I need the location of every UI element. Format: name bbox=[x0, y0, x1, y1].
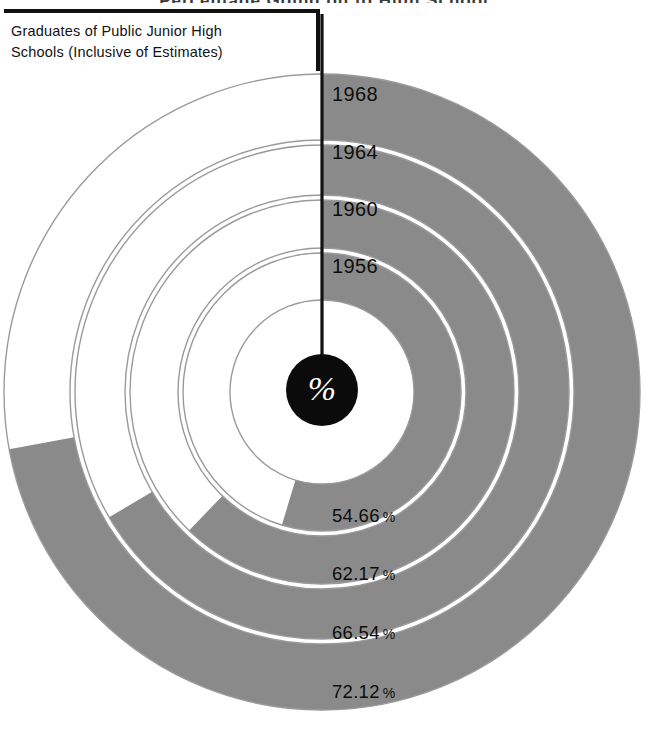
ring-year-label-1960: 1960 bbox=[332, 198, 378, 221]
ring-percent-label-1956: 54.66% bbox=[332, 505, 396, 527]
percent-sign-1968: % bbox=[380, 685, 396, 701]
legend-box: Graduates of Public Junior High Schools … bbox=[4, 9, 320, 71]
percent-glyph: % bbox=[308, 372, 336, 406]
ring-percent-label-1968: 72.12% bbox=[332, 681, 396, 703]
percent-value-1964: 66.54 bbox=[332, 622, 380, 643]
percent-sign-1956: % bbox=[380, 509, 396, 525]
ring-percent-label-1960: 62.17% bbox=[332, 563, 396, 585]
percent-value-1956: 54.66 bbox=[332, 505, 380, 526]
percent-value-1960: 62.17 bbox=[332, 563, 380, 584]
percent-sign-1960: % bbox=[380, 567, 396, 583]
percent-sign-1964: % bbox=[380, 626, 396, 642]
ring-year-label-1964: 1964 bbox=[332, 141, 378, 164]
legend-line-2: Schools (Inclusive of Estimates) bbox=[11, 42, 223, 63]
ring-year-label-1968: 1968 bbox=[332, 83, 378, 106]
legend-line-1: Graduates of Public Junior High bbox=[11, 21, 222, 42]
ring-year-label-1956: 1956 bbox=[332, 255, 378, 278]
percent-value-1968: 72.12 bbox=[332, 681, 380, 702]
ring-percent-label-1964: 66.54% bbox=[332, 622, 396, 644]
percent-symbol-disc: % bbox=[286, 354, 358, 426]
ring-chart-container: Percentage Going on to High School Gradu… bbox=[0, 0, 648, 734]
